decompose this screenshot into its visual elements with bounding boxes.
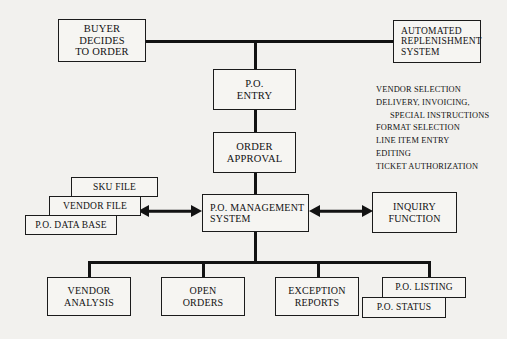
connector-top-bus xyxy=(144,40,396,43)
node-po-management-system[interactable]: P.O. MANAGEMENT SYSTEM xyxy=(202,194,309,232)
node-label: VENDOR ANALYSIS xyxy=(61,285,117,307)
node-exception-reports[interactable]: EXCEPTION REPORTS xyxy=(275,277,359,316)
entry-functions-list: VENDOR SELECTION DELIVERY, INVOICING, SP… xyxy=(376,84,504,173)
flowchart-canvas: BUYER DECIDES TO ORDER AUTOMATED REPLENI… xyxy=(0,0,507,339)
entry-function-item: SPECIAL INSTRUCTIONS xyxy=(376,110,504,123)
node-label: P.O. MANAGEMENT SYSTEM xyxy=(203,202,307,224)
node-buyer-decides-to-order[interactable]: BUYER DECIDES TO ORDER xyxy=(58,19,146,62)
node-label: INQUIRY FUNCTION xyxy=(385,201,443,223)
entry-function-item: TICKET AUTHORIZATION xyxy=(376,161,504,174)
entry-function-item: EDITING xyxy=(376,148,504,161)
node-label: P.O. ENTRY xyxy=(234,78,275,102)
entry-function-item: LINE ITEM ENTRY xyxy=(376,135,504,148)
node-vendor-file[interactable]: VENDOR FILE xyxy=(49,196,141,216)
node-label: P.O. DATA BASE xyxy=(32,220,110,231)
node-label: P.O. LISTING xyxy=(392,282,456,293)
node-label: AUTOMATED REPLENISHMENT SYSTEM xyxy=(394,26,485,58)
node-vendor-analysis[interactable]: VENDOR ANALYSIS xyxy=(47,277,131,316)
node-po-listing[interactable]: P.O. LISTING xyxy=(382,277,466,298)
node-label: BUYER DECIDES TO ORDER xyxy=(72,23,132,58)
entry-function-item: FORMAT SELECTION xyxy=(376,122,504,135)
entry-function-item: DELIVERY, INVOICING, xyxy=(376,97,504,110)
node-automated-replenishment-system[interactable]: AUTOMATED REPLENISHMENT SYSTEM xyxy=(393,20,481,63)
node-label: EXCEPTION REPORTS xyxy=(285,285,348,307)
connector-drop-exception-reports xyxy=(317,261,320,277)
node-label: OPEN ORDERS xyxy=(180,285,227,307)
node-order-approval[interactable]: ORDER APPROVAL xyxy=(213,132,296,173)
connector-bus-to-po-entry xyxy=(254,40,257,69)
node-label: P.O. STATUS xyxy=(374,302,435,313)
connector-drop-vendor-analysis xyxy=(88,261,91,277)
connector-bottom-bus xyxy=(88,261,431,264)
entry-function-item: VENDOR SELECTION xyxy=(376,84,504,97)
node-po-entry[interactable]: P.O. ENTRY xyxy=(213,69,296,110)
connector-drop-open-orders xyxy=(202,261,205,277)
node-sku-file[interactable]: SKU FILE xyxy=(71,177,158,197)
connector-po-management-to-bottom-bus xyxy=(254,231,257,263)
node-po-data-base[interactable]: P.O. DATA BASE xyxy=(25,215,117,235)
connector-drop-po-listing xyxy=(428,261,431,277)
node-po-status[interactable]: P.O. STATUS xyxy=(362,297,446,318)
connector-order-approval-to-po-management xyxy=(254,172,257,195)
arrow-po-management-to-inquiry-function xyxy=(309,203,373,219)
connector-po-entry-to-order-approval xyxy=(254,109,257,133)
node-label: ORDER APPROVAL xyxy=(224,141,286,165)
node-inquiry-function[interactable]: INQUIRY FUNCTION xyxy=(372,192,457,233)
node-label: VENDOR FILE xyxy=(60,201,130,212)
node-label: SKU FILE xyxy=(90,182,139,193)
node-open-orders[interactable]: OPEN ORDERS xyxy=(161,277,245,316)
arrow-vendor-file-to-po-management xyxy=(138,203,202,219)
